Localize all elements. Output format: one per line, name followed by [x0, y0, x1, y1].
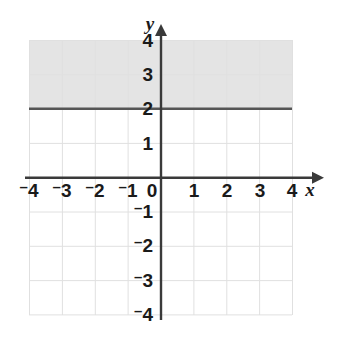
graph-svg: –4 –3 –2 –1 0 1 2 3 4 4 3 2 1 –1 –2 –3 –…	[0, 0, 337, 340]
x-tick-0: 0	[147, 180, 158, 201]
x-tick-4: 4	[287, 180, 298, 201]
y-tick-3: 3	[142, 64, 153, 85]
y-tick--4: –4	[134, 302, 153, 325]
coordinate-plane-graph: –4 –3 –2 –1 0 1 2 3 4 4 3 2 1 –1 –2 –3 –…	[0, 0, 337, 340]
x-tick-1: 1	[189, 180, 200, 201]
x-axis-label: x	[304, 179, 315, 200]
y-axis-label: y	[144, 13, 155, 34]
y-tick-2: 2	[142, 98, 153, 119]
x-tick-2: 2	[222, 180, 233, 201]
x-tick--4: –4	[20, 178, 39, 201]
x-tick-3: 3	[255, 180, 266, 201]
y-tick-1: 1	[142, 133, 153, 154]
y-axis-arrow-icon	[155, 24, 167, 36]
